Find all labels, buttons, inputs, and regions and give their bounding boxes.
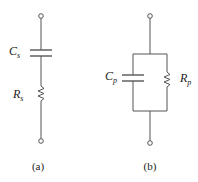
label-rs: Rs [12,87,23,103]
circuit-diagram: Cs Rs (a) Cp Rp (b) [0,0,198,182]
resistor-a [38,86,44,101]
label-cs: Cs [9,44,20,60]
terminal-bottom-b [148,141,153,146]
terminal-top-b [148,14,153,19]
resistor-b [164,72,170,87]
label-cp: Cp [105,69,117,85]
circuit-a: Cs Rs (a) [9,14,52,173]
label-rp: Rp [179,71,191,87]
terminal-bottom-a [39,139,44,144]
terminal-top-a [39,14,44,19]
caption-a: (a) [32,160,45,173]
circuit-b: Cp Rp (b) [105,14,191,173]
caption-b: (b) [144,160,157,173]
